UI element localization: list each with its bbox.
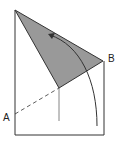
fold-diagram: A B bbox=[0, 0, 122, 143]
dashed-fold-line bbox=[15, 88, 59, 114]
label-a: A bbox=[3, 112, 10, 123]
folded-flap bbox=[15, 10, 103, 88]
label-b: B bbox=[108, 53, 115, 64]
